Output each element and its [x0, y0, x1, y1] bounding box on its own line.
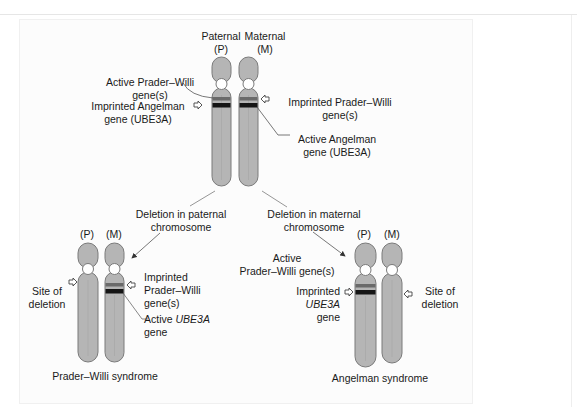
label-line: Active Angelman: [287, 133, 387, 146]
as-m-label: (M): [384, 228, 400, 241]
pws-active-ube3a-label: Active UBE3A gene: [144, 313, 210, 339]
open-arrow-icon: [261, 95, 269, 103]
label-line: chromosome: [126, 221, 236, 234]
label-line: gene(s): [144, 297, 201, 310]
label-line: Imprinted: [290, 285, 340, 298]
label-text: Active: [144, 313, 176, 325]
pws-imprinted-pw-label: Imprinted Prader–Willi gene(s): [144, 271, 201, 310]
pws-m-label: (M): [106, 228, 122, 241]
as-active-pw-label: Active Prader–Willi gene(s): [232, 252, 342, 278]
active-pw-label: Active Prader–Willi gene(s): [96, 76, 204, 102]
as-title: Angelman syndrome: [325, 372, 435, 385]
label-line: deletion: [26, 298, 68, 311]
open-arrow-icon: [69, 278, 77, 286]
paternal-label: Paternal (P): [196, 30, 246, 56]
pws-paternal-chromosome: [78, 243, 98, 362]
label-line: Site of: [418, 285, 462, 298]
active-angelman-label: Active Angelman gene (UBE3A): [287, 133, 387, 159]
as-maternal-chromosome: [382, 243, 402, 363]
maternal-label: Maternal (M): [240, 30, 290, 56]
label-line: Deletion in maternal: [259, 208, 369, 221]
label-line: gene: [144, 326, 210, 339]
maternal-label-abbrev: (M): [240, 43, 290, 56]
label-line: gene (UBE3A): [79, 113, 197, 126]
pws-maternal-chromosome: [105, 243, 124, 362]
label-line: deletion: [418, 298, 462, 311]
as-paternal-chromosome: [355, 243, 376, 367]
open-arrow-icon: [404, 290, 412, 298]
imprinted-pw-label: Imprinted Prader–Willi gene(s): [275, 96, 405, 122]
label-line: Prader–Willi: [144, 284, 201, 297]
pws-title: Prader–Willi syndrome: [45, 370, 165, 383]
chromosome-diagram: [0, 0, 577, 412]
label-line: Imprinted Angelman: [79, 100, 197, 113]
gene-name: UBE3A: [290, 298, 340, 311]
label-line: gene(s): [275, 109, 405, 122]
label-line: Imprinted Prader–Willi: [275, 96, 405, 109]
branch-line-left: [190, 191, 215, 206]
label-line: chromosome: [259, 221, 369, 234]
as-site-of-deletion-label: Site of deletion: [418, 285, 462, 311]
label-line: gene: [290, 311, 340, 324]
open-arrow-icon: [127, 281, 135, 289]
as-p-label: (P): [357, 228, 371, 241]
arrow-left: [132, 233, 160, 258]
pws-p-label: (P): [80, 228, 94, 241]
label-line: Active: [232, 252, 342, 265]
gene-name: UBE3A: [176, 313, 210, 325]
label-line: Site of: [26, 285, 68, 298]
as-imprinted-ube3a-label: Imprinted UBE3A gene: [290, 285, 340, 324]
branch-line-right: [262, 191, 287, 207]
paternal-label-abbrev: (P): [196, 43, 246, 56]
label-line: Active UBE3A: [144, 313, 210, 326]
label-line: Deletion in paternal: [126, 208, 236, 221]
label-line: Imprinted: [144, 271, 201, 284]
deletion-paternal-label: Deletion in paternal chromosome: [126, 208, 236, 234]
maternal-label-text: Maternal: [240, 30, 290, 43]
top-maternal-chromosome: [239, 57, 258, 186]
top-paternal-chromosome: [212, 57, 231, 186]
paternal-label-text: Paternal: [196, 30, 246, 43]
imprinted-angelman-label: Imprinted Angelman gene (UBE3A): [79, 100, 197, 126]
open-arrow-icon: [345, 288, 353, 296]
pws-site-of-deletion-label: Site of deletion: [26, 285, 68, 311]
label-line: Active Prader–Willi: [96, 76, 204, 89]
label-line: Prader–Willi gene(s): [232, 265, 342, 278]
label-line: gene (UBE3A): [287, 146, 387, 159]
deletion-maternal-label: Deletion in maternal chromosome: [259, 208, 369, 234]
